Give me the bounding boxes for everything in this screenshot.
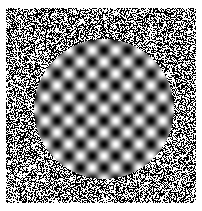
- grating-canvas: [34, 39, 174, 179]
- grating-disc: [34, 39, 174, 179]
- stimulus-figure: [0, 0, 202, 211]
